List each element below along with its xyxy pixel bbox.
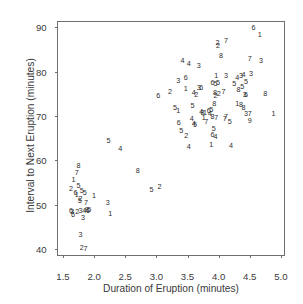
data-point: 1 bbox=[184, 86, 188, 93]
data-point: 7 bbox=[83, 245, 87, 252]
plot-frame: 2178561525576362348653327131548526251344… bbox=[57, 21, 285, 256]
data-point: 3 bbox=[106, 199, 110, 206]
x-tick-mark bbox=[250, 255, 251, 258]
data-point: 5 bbox=[179, 127, 183, 134]
y-tick-label: 70 bbox=[36, 110, 47, 121]
data-point: 8 bbox=[136, 167, 140, 174]
data-point: 5 bbox=[83, 189, 87, 196]
y-tick-label: 50 bbox=[36, 199, 47, 210]
plot-data-area: 2178561525576362348653327131548526251344… bbox=[58, 22, 284, 255]
data-point: 5 bbox=[216, 80, 220, 87]
x-tick-label: 5.0 bbox=[274, 271, 287, 282]
x-tick-label: 1.5 bbox=[56, 271, 69, 282]
data-point: 1 bbox=[176, 107, 180, 114]
data-point: 3 bbox=[197, 63, 201, 70]
data-point: 6 bbox=[184, 75, 188, 82]
data-point: 5 bbox=[190, 102, 194, 109]
data-point: 3 bbox=[259, 57, 263, 64]
data-point: 5 bbox=[106, 137, 110, 144]
data-point: 8 bbox=[219, 53, 223, 60]
y-tick-label: 40 bbox=[36, 243, 47, 254]
data-point: 2 bbox=[168, 88, 172, 95]
data-point: 7 bbox=[248, 56, 252, 63]
x-axis-title: Duration of Eruption (minutes) bbox=[57, 283, 285, 294]
data-point: 4 bbox=[214, 134, 218, 141]
x-tick-mark bbox=[156, 255, 157, 258]
data-point: 4 bbox=[229, 142, 233, 149]
y-tick-mark bbox=[55, 116, 58, 117]
data-point: 3 bbox=[78, 231, 82, 238]
data-point: 5 bbox=[87, 206, 91, 213]
x-tick-mark bbox=[63, 255, 64, 258]
data-point: 6 bbox=[251, 25, 255, 32]
x-tick-label: 4.0 bbox=[212, 271, 225, 282]
x-tick-mark bbox=[125, 255, 126, 258]
data-point: 1 bbox=[258, 32, 262, 39]
data-point: 6 bbox=[156, 92, 160, 99]
data-point: 1 bbox=[108, 211, 112, 218]
data-point: 5 bbox=[78, 198, 82, 205]
x-tick-mark bbox=[281, 255, 282, 258]
scatter-plot-figure: 2178561525576362348653327131548526251344… bbox=[0, 0, 303, 304]
x-tick-label: 2.5 bbox=[119, 271, 132, 282]
data-point: 2 bbox=[194, 91, 198, 98]
data-point: 7 bbox=[222, 88, 226, 95]
x-tick-label: 2.0 bbox=[87, 271, 100, 282]
data-point: 6 bbox=[199, 84, 203, 91]
y-axis-title: Interval to Next Eruption (minutes) bbox=[25, 18, 36, 254]
data-point: 4 bbox=[181, 57, 185, 64]
y-tick-label: 80 bbox=[36, 66, 47, 77]
data-point: 2 bbox=[215, 40, 219, 47]
data-point: 3 bbox=[224, 72, 228, 79]
data-point: 7 bbox=[75, 170, 79, 177]
data-point: 5 bbox=[228, 119, 232, 126]
data-point: 7 bbox=[204, 119, 208, 126]
x-tick-mark bbox=[219, 255, 220, 258]
x-tick-mark bbox=[94, 255, 95, 258]
data-point: 4 bbox=[118, 145, 122, 152]
data-point: 9 bbox=[248, 118, 252, 125]
data-point: 2 bbox=[184, 133, 188, 140]
data-point: 4 bbox=[187, 143, 191, 150]
data-point: 4 bbox=[192, 120, 196, 127]
data-point: 6 bbox=[244, 91, 248, 98]
y-tick-mark bbox=[55, 160, 58, 161]
y-tick-label: 60 bbox=[36, 155, 47, 166]
data-point: 2 bbox=[157, 183, 161, 190]
y-tick-mark bbox=[55, 205, 58, 206]
x-tick-mark bbox=[188, 255, 189, 258]
data-point: 1 bbox=[209, 142, 213, 149]
x-tick-label: 3.0 bbox=[150, 271, 163, 282]
data-point: 5 bbox=[149, 186, 153, 193]
y-tick-label: 90 bbox=[36, 22, 47, 33]
data-point: 3 bbox=[81, 215, 85, 222]
x-tick-label: 3.5 bbox=[181, 271, 194, 282]
data-point: 7 bbox=[224, 37, 228, 44]
x-tick-label: 4.5 bbox=[243, 271, 256, 282]
data-point: 7 bbox=[214, 115, 218, 122]
data-point: 3 bbox=[176, 78, 180, 85]
data-point: 7 bbox=[223, 115, 227, 122]
data-point: 8 bbox=[77, 162, 81, 169]
y-tick-mark bbox=[55, 249, 58, 250]
data-point: 4 bbox=[187, 60, 191, 67]
y-tick-mark bbox=[55, 72, 58, 73]
data-point: 5 bbox=[244, 79, 248, 86]
data-point: 1 bbox=[92, 192, 96, 199]
data-point: 2 bbox=[214, 92, 218, 99]
y-tick-mark bbox=[55, 27, 58, 28]
data-point: 8 bbox=[263, 91, 267, 98]
data-point: 3 bbox=[249, 71, 253, 78]
data-point: 1 bbox=[271, 111, 275, 118]
